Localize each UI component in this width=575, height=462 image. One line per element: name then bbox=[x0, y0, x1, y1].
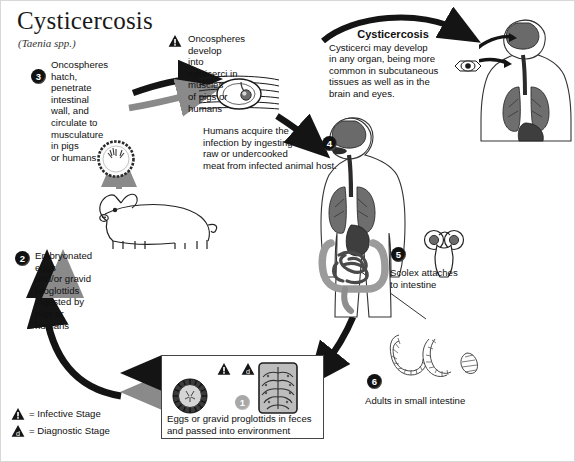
oncospheres-develop-text: Oncospheres develop into cysticerci in m… bbox=[188, 33, 245, 114]
life-cycle-diagram: Cysticercosis (Taenia spp.) bbox=[0, 0, 575, 462]
legend-label-diagnostic: = Diagnostic Stage bbox=[29, 425, 110, 436]
taenia-egg-icon bbox=[172, 378, 208, 414]
legend: = Infective Stage d = Diagnostic Stage bbox=[11, 405, 110, 439]
legend-label-infective: = Infective Stage bbox=[29, 408, 101, 419]
eye-closeup-icon bbox=[453, 59, 483, 73]
svg-text:d: d bbox=[16, 428, 20, 437]
infective-triangle-icon bbox=[168, 34, 182, 48]
cysticercosis-callout: Cysticercosis Cysticerci may develop in … bbox=[329, 29, 457, 100]
diagnostic-stage-icon-box: d bbox=[241, 362, 255, 376]
legend-row-diagnostic: d = Diagnostic Stage bbox=[11, 422, 110, 439]
step-6-caption: Adults in small intestine bbox=[365, 395, 515, 407]
pig-icon bbox=[85, 183, 225, 253]
step-5-caption: Scolex attaches to intestine bbox=[390, 267, 480, 290]
step-number-2: 2 bbox=[15, 251, 30, 266]
step-number-6: 6 bbox=[367, 374, 382, 389]
svg-text:d: d bbox=[246, 367, 250, 376]
step-4-caption: Humans acquire the infection by ingestin… bbox=[203, 125, 343, 171]
step-1-caption: Eggs or gravid proglottids in feces and … bbox=[167, 413, 325, 436]
feces-stage-box: d bbox=[161, 355, 324, 439]
legend-row-infective: = Infective Stage bbox=[11, 405, 110, 422]
diagnostic-triangle-icon: d bbox=[11, 424, 25, 438]
arrow-step3-to-cysticercus-grey bbox=[129, 93, 197, 108]
diagnostic-triangle-icon: d bbox=[241, 362, 255, 376]
human-brain-and-eye-icon bbox=[479, 15, 575, 143]
gravid-proglottid-icon bbox=[257, 361, 299, 415]
step-3-caption: Oncospheres hatch, penetrate intestinal … bbox=[51, 59, 108, 163]
arrow-human-to-feces-box bbox=[323, 317, 353, 367]
infective-triangle-icon bbox=[217, 362, 231, 376]
step-number-4: 4 bbox=[322, 136, 337, 151]
infective-triangle-icon bbox=[11, 407, 25, 421]
adult-tapeworm-icon bbox=[389, 331, 507, 383]
infective-stage-icon-box bbox=[217, 362, 231, 376]
step-number-1: 1 bbox=[235, 395, 250, 410]
step-number-3: 3 bbox=[31, 69, 46, 84]
step-number-5: 5 bbox=[391, 247, 406, 262]
step-2-caption: Embryonated eggs and/or gravid proglotti… bbox=[35, 250, 92, 331]
cysticercosis-callout-heading: Cysticercosis bbox=[329, 29, 457, 41]
cysticercosis-callout-body: Cysticerci may develop in any organ, bei… bbox=[329, 42, 457, 100]
